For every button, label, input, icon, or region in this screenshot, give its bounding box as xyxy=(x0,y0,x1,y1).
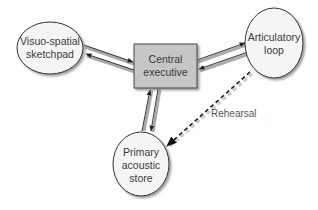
node-visuo-spatial-sketchpad: Visuo-spatial sketchpad xyxy=(17,22,83,74)
visuo-line-1: Visuo-spatial xyxy=(20,35,80,47)
working-memory-diagram: Rehearsal Central executive Visuo-spatia… xyxy=(0,0,318,210)
node-articulatory-loop: Articulatory loop xyxy=(245,8,303,78)
primary-line-1: Primary xyxy=(123,146,160,158)
primary-line-2: acoustic xyxy=(122,159,161,171)
articulatory-line-2: loop xyxy=(264,44,284,56)
edge-articulatory-to-central xyxy=(199,52,249,71)
visuo-line-2: sketchpad xyxy=(26,48,74,60)
primary-line-3: store xyxy=(129,172,153,184)
rehearsal-label: Rehearsal xyxy=(211,108,257,119)
node-primary-acoustic-store: Primary acoustic store xyxy=(113,132,169,196)
central-line-2: executive xyxy=(143,66,188,78)
articulatory-line-1: Articulatory xyxy=(248,31,301,43)
node-central-executive: Central executive xyxy=(134,44,197,88)
central-line-1: Central xyxy=(149,53,183,65)
edge-primary-to-central xyxy=(142,90,152,131)
